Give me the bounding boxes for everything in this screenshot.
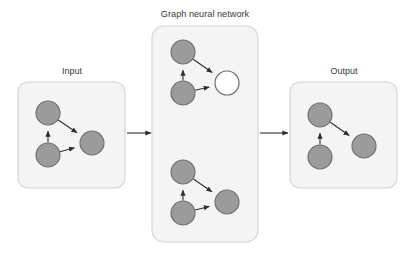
node-input-graph-a [36, 101, 60, 125]
node-output-graph-b [308, 145, 332, 169]
node-input-graph-b [36, 143, 60, 167]
node-gnn-graph-top-c-highlighted [215, 71, 239, 95]
diagram-canvas: InputGraph neural networkOutput [0, 0, 410, 256]
panel-output [290, 82, 397, 188]
gnn-pipeline-diagram: InputGraph neural networkOutput [0, 0, 410, 256]
node-output-graph-a [308, 103, 332, 127]
panel-label-input: Input [62, 66, 83, 76]
panel-gnn [152, 26, 258, 242]
node-gnn-graph-bottom-b [171, 201, 195, 225]
panels-group [18, 26, 397, 242]
panel-label-output: Output [330, 66, 358, 76]
panel-input [18, 82, 125, 188]
node-gnn-graph-top-b [171, 81, 195, 105]
node-gnn-graph-top-a [171, 40, 195, 64]
node-input-graph-c [80, 131, 104, 155]
node-gnn-graph-bottom-a [171, 160, 195, 184]
node-output-graph-c [352, 134, 376, 158]
panel-label-gnn: Graph neural network [161, 9, 250, 19]
node-gnn-graph-bottom-c [215, 190, 239, 214]
